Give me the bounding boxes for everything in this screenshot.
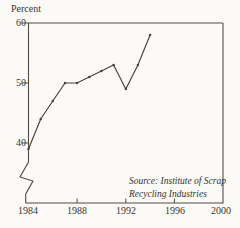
data-point-marker (27, 148, 29, 150)
x-tick-label-1992: 1992 (116, 205, 136, 216)
data-point-marker (149, 34, 151, 36)
y-axis-line-with-break (20, 23, 33, 203)
x-tick-label-2000: 2000 (211, 205, 231, 216)
series-line (29, 35, 151, 149)
source-note-line1: Source: Institute of Scrap (129, 175, 226, 188)
data-point-marker (88, 76, 90, 78)
data-point-marker (64, 82, 66, 84)
x-tick-label-1984: 1984 (18, 205, 38, 216)
source-note: Source: Institute of Scrap Recycling Ind… (129, 175, 226, 200)
data-point-marker (52, 100, 54, 102)
data-point-marker (112, 64, 114, 66)
data-point-marker (137, 64, 139, 66)
data-point-marker (40, 118, 42, 120)
data-point-marker (76, 82, 78, 84)
x-tick-label-1996: 1996 (165, 205, 185, 216)
chart-figure: Percent 60 50 40 1984 1988 1992 1996 200… (0, 0, 240, 228)
data-series (27, 34, 151, 150)
source-note-line2: Recycling Industries (129, 188, 226, 201)
data-point-marker (125, 88, 127, 90)
data-point-marker (100, 70, 102, 72)
x-tick-label-1988: 1988 (67, 205, 87, 216)
